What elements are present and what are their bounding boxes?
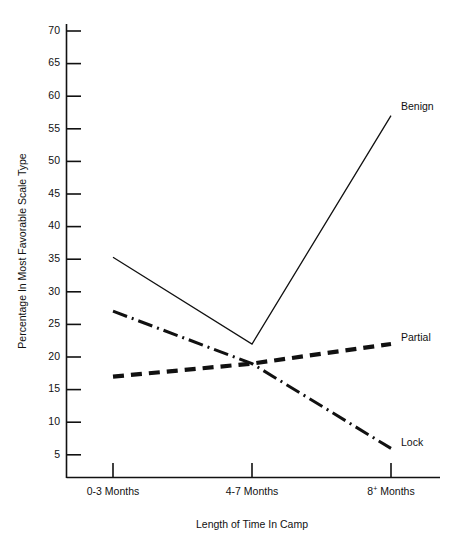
x-tick-label-2: 8+ Months: [367, 485, 414, 497]
chart-container: 70 65 60 55 50 45 40 35 30 25 20 15 10 5…: [0, 0, 466, 543]
y-tick-label: 55: [48, 122, 60, 134]
y-axis-ticks: [67, 31, 81, 455]
x-tick-label-1: 4-7 Months: [226, 485, 279, 497]
y-tick-label: 10: [48, 415, 60, 427]
series-line-benign: [113, 116, 391, 344]
y-tick-label: 25: [48, 317, 60, 329]
y-tick-label: 35: [48, 252, 60, 264]
x-tick-label-0: 0-3 Months: [87, 485, 140, 497]
y-tick-label: 20: [48, 350, 60, 362]
series-label-lock: Lock: [401, 436, 424, 448]
y-tick-label: 70: [48, 24, 60, 36]
y-tick-label: 50: [48, 154, 60, 166]
y-tick-label: 65: [48, 56, 60, 68]
series-line-lock: [113, 311, 391, 448]
y-tick-label: 60: [48, 89, 60, 101]
y-tick-label: 5: [54, 448, 60, 460]
y-tick-label: 45: [48, 187, 60, 199]
series-label-benign: Benign: [401, 100, 434, 112]
y-tick-label: 40: [48, 219, 60, 231]
series-label-partial: Partial: [401, 331, 431, 343]
series-line-partial: [113, 344, 391, 377]
x-tick-label-2-unit: Months: [380, 485, 414, 497]
x-axis-ticks: [113, 463, 391, 477]
line-chart: 70 65 60 55 50 45 40 35 30 25 20 15 10 5…: [0, 0, 466, 543]
x-axis-title: Length of Time In Camp: [196, 518, 308, 530]
x-axis-tick-labels: 0-3 Months 4-7 Months 8+ Months: [87, 485, 415, 497]
y-axis-tick-labels: 70 65 60 55 50 45 40 35 30 25 20 15 10 5: [48, 24, 60, 460]
y-axis-title: Percentage In Most Favorable Scale Type: [16, 153, 28, 348]
y-tick-label: 15: [48, 382, 60, 394]
y-tick-label: 30: [48, 285, 60, 297]
